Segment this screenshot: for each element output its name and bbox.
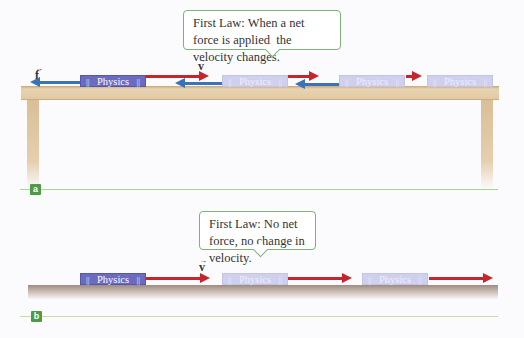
velocity-symbol: → v [199,260,205,275]
force-arrow [295,83,339,86]
book-ghost: || Physics || [222,75,288,87]
panel-divider [20,316,498,317]
callout-text: First Law: No net force, no change in ve… [209,217,305,265]
table-leg-right [481,97,493,189]
callout-panel-a: First Law: When a net force is applied, … [183,10,341,50]
velocity-arrow [288,75,319,78]
book-ghost: || Physics || [362,273,428,285]
panel-label-a: a [30,184,41,195]
book-ghost: || Physics || [339,75,405,87]
book-ghost: || Physics || [427,75,493,87]
book-ghost: || Physics || [222,273,288,285]
book: || Physics || [80,75,146,87]
panel-divider [20,189,498,190]
velocity-arrow [429,277,493,280]
table-top [21,86,499,100]
velocity-arrow [288,277,352,280]
callout-panel-b: First Law: No net force, no change in ve… [199,211,316,250]
force-arrow [175,82,222,85]
velocity-symbol: → v [198,59,204,74]
table-leg-left [27,97,39,189]
book: || Physics || [80,273,146,285]
panel-label-b: b [31,311,42,322]
force-arrow [30,81,80,84]
floor-surface [28,285,498,299]
velocity-arrow [406,75,422,78]
velocity-arrow [146,277,210,280]
callout-text: First Law: When a net force is applied, … [193,16,305,64]
